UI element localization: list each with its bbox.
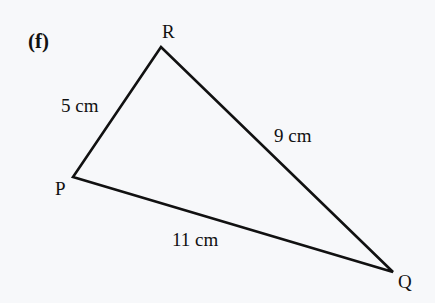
triangle-pqr bbox=[0, 0, 435, 303]
triangle-outline bbox=[73, 47, 393, 272]
vertex-r-label: R bbox=[162, 22, 175, 41]
side-pr-length: 5 cm bbox=[61, 96, 98, 115]
side-rq-length: 9 cm bbox=[274, 126, 311, 145]
vertex-p-label: P bbox=[55, 179, 66, 198]
vertex-q-label: Q bbox=[398, 272, 412, 291]
part-label: (f) bbox=[28, 31, 49, 52]
side-pq-length: 11 cm bbox=[172, 230, 218, 249]
